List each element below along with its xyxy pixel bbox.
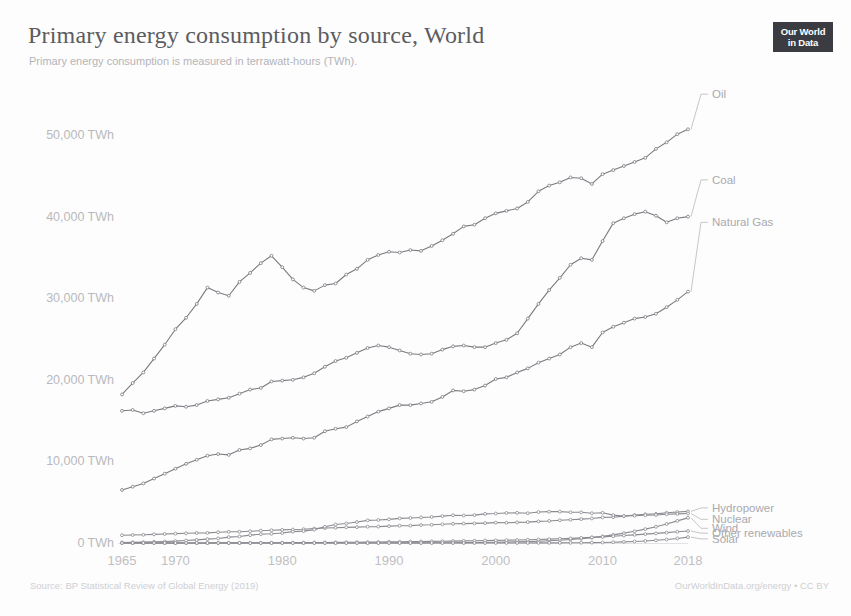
data-point [687,530,690,533]
data-point [441,523,444,526]
data-point [388,407,391,410]
data-point [516,511,519,514]
data-point [558,537,561,540]
data-point [163,533,166,536]
data-point [441,348,444,351]
data-point [291,542,294,545]
data-point [580,511,583,514]
data-point [633,530,636,533]
data-point [687,128,690,131]
data-point [633,213,636,216]
data-point [601,331,604,334]
data-point [206,542,209,545]
data-point [249,534,252,537]
data-point [334,427,337,430]
data-point [558,541,561,544]
data-point [462,344,465,347]
series-leader-line [691,94,708,129]
series-line [122,129,688,394]
data-point [516,539,519,542]
data-point [473,514,476,517]
data-point [601,511,604,514]
data-point [526,512,529,515]
data-point [569,511,572,514]
data-point [206,538,209,541]
data-point [494,342,497,345]
data-point [153,357,156,360]
data-point [462,522,465,525]
data-point [537,361,540,364]
attribution-note[interactable]: OurWorldInData.org/energy • CC BY [675,580,829,591]
series-label-coal[interactable]: Coal [712,174,736,186]
data-point [505,376,508,379]
data-point [494,378,497,381]
data-point [366,415,369,418]
data-point [569,518,572,521]
data-point [505,512,508,515]
data-point [537,541,540,544]
data-point [249,530,252,533]
data-point [270,438,273,441]
data-point [644,528,647,531]
data-point [217,542,220,545]
data-point [430,245,433,248]
data-point [291,530,294,533]
data-point [687,215,690,218]
series-label-natural-gas[interactable]: Natural Gas [712,216,773,228]
data-point [355,420,358,423]
data-point [644,210,647,213]
data-point [323,365,326,368]
data-point [174,532,177,535]
data-point [345,273,348,276]
data-point [569,176,572,179]
data-point [142,412,145,415]
series-label-solar[interactable]: Solar [712,533,739,545]
data-point [494,512,497,515]
data-point [462,390,465,393]
data-point [334,542,337,545]
data-point [270,254,273,257]
data-point [227,536,230,539]
data-point [259,262,262,265]
data-point [291,278,294,281]
data-point [430,400,433,403]
series-label-hydropower[interactable]: Hydropower [712,502,774,514]
source-note: Source: BP Statistical Review of Global … [30,580,258,591]
data-point [259,444,262,447]
data-point [452,542,455,545]
data-point [259,533,262,536]
data-point [249,542,252,545]
data-point [505,338,508,341]
data-point [676,530,679,533]
data-point [409,249,412,252]
data-point [121,534,124,537]
data-point [345,522,348,525]
data-point [580,177,583,180]
data-point [580,342,583,345]
data-point [569,541,572,544]
data-point [217,398,220,401]
data-point [398,517,401,520]
data-point [633,317,636,320]
data-point [484,217,487,220]
data-point [163,407,166,410]
data-point [388,346,391,349]
data-point [430,523,433,526]
data-point [622,540,625,543]
data-point [569,263,572,266]
data-point [131,534,134,537]
data-point [195,542,198,545]
series-nuclear [121,510,708,544]
data-point [516,371,519,374]
data-point [217,531,220,534]
data-point [206,400,209,403]
data-point [174,404,177,407]
data-point [484,346,487,349]
data-point [142,542,145,545]
data-point [665,513,668,516]
series-label-oil[interactable]: Oil [712,88,726,100]
data-point [121,393,124,396]
data-point [420,542,423,545]
data-point [238,392,241,395]
data-point [259,387,262,390]
